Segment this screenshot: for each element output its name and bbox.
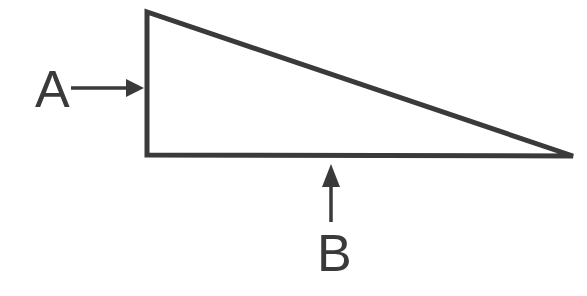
- diagram-background: [0, 0, 587, 296]
- label-a-text: A: [35, 60, 70, 118]
- label-b-text: B: [317, 224, 352, 282]
- diagram-canvas: A B: [0, 0, 587, 296]
- triangle-diagram-svg: A B: [0, 0, 587, 296]
